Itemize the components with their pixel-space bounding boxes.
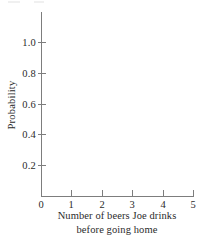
- y-tick-label-text: 0.2: [2, 160, 36, 171]
- x-tick-mark: [102, 190, 103, 197]
- x-axis-title-line-1: Number of beers Joe drinks: [30, 209, 204, 223]
- y-tick-label: 0.2: [0, 160, 36, 171]
- y-axis-title: Probability: [6, 69, 18, 141]
- x-tick-mark: [193, 190, 194, 197]
- y-tick-mark: [38, 73, 46, 74]
- x-tick-mark: [132, 190, 133, 197]
- y-tick-mark: [38, 42, 46, 43]
- y-tick-label-text: 1.0: [2, 37, 36, 48]
- y-tick-mark: [38, 134, 46, 135]
- scan-artifact: [8, 1, 20, 3]
- x-axis-title: Number of beers Joe drinks before going …: [30, 209, 204, 236]
- scan-artifact: [34, 1, 44, 3]
- x-axis-line: [41, 196, 194, 197]
- y-tick-label: 1.0: [0, 37, 36, 48]
- plot-area: [42, 12, 194, 196]
- x-tick-mark: [71, 190, 72, 197]
- y-tick-mark: [38, 104, 46, 105]
- probability-chart-figure: 0.2 0.4 0.6 0.8 1.0 0 1 2 3 4 5 Probabil…: [0, 0, 204, 242]
- y-tick-mark: [38, 165, 46, 166]
- x-tick-mark: [163, 190, 164, 197]
- x-axis-title-line-2: before going home: [30, 223, 204, 237]
- x-tick-mark: [41, 190, 42, 197]
